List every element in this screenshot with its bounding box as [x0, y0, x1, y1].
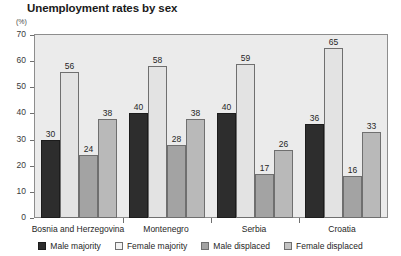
y-axis-tick-label: 40 [17, 107, 26, 117]
legend-item: Male displaced [201, 241, 270, 251]
y-axis-tick-label: 0 [21, 212, 26, 222]
x-axis-category-label: Serbia [242, 224, 267, 234]
bar [255, 174, 274, 218]
legend-swatch [284, 242, 292, 250]
y-axis-tick-label: 20 [17, 160, 26, 170]
bar [79, 155, 98, 218]
bar [274, 150, 293, 218]
y-axis-tick-mark [30, 192, 34, 193]
legend-label: Male displaced [213, 241, 270, 251]
x-axis-category-label: Montenegro [143, 224, 188, 234]
bar [217, 113, 236, 218]
chart-title: Unemployment rates by sex [27, 2, 177, 14]
bar-value-label: 33 [358, 121, 385, 131]
legend-label: Female displaced [296, 241, 363, 251]
y-axis-tick-mark [30, 35, 34, 36]
y-axis-tick-mark [30, 113, 34, 114]
y-axis: 010203040506070 [0, 0, 34, 219]
bar-value-label: 26 [270, 139, 297, 149]
bar [324, 48, 343, 218]
y-axis-tick-mark [30, 140, 34, 141]
x-axis-group-tick [299, 218, 300, 223]
legend-label: Female majority [127, 241, 187, 251]
bar [305, 124, 324, 218]
bar-value-label: 65 [320, 37, 347, 47]
y-axis-tick-label: 60 [17, 55, 26, 65]
y-axis-tick-label: 10 [17, 186, 26, 196]
legend-swatch [115, 242, 123, 250]
chart-figure: Unemployment rates by sex (%) 0102030405… [0, 0, 401, 256]
x-axis-category-label: Bosnia and Herzegovina [32, 224, 125, 234]
y-axis-tick-label: 70 [17, 29, 26, 39]
chart-legend: Male majorityFemale majorityMale displac… [0, 239, 401, 253]
bar [41, 140, 60, 218]
y-axis-tick-mark [30, 166, 34, 167]
bar [236, 64, 255, 218]
bar-value-label: 59 [232, 53, 259, 63]
bar-value-label: 58 [144, 55, 171, 65]
legend-item: Male majority [38, 241, 101, 251]
x-axis-group-tick [123, 218, 124, 223]
y-axis-tick-mark [30, 61, 34, 62]
bar [129, 113, 148, 218]
legend-swatch [201, 242, 209, 250]
y-axis-tick-mark [30, 87, 34, 88]
legend-swatch [38, 242, 46, 250]
y-axis-tick-label: 50 [17, 81, 26, 91]
x-axis-category-label: Croatia [328, 224, 355, 234]
legend-label: Male majority [50, 241, 101, 251]
bar-value-label: 38 [182, 108, 209, 118]
x-axis-group-tick [211, 218, 212, 223]
bars-layer: 30562438405828384059172636651633 [35, 35, 387, 218]
bar [343, 176, 362, 218]
bar [362, 132, 381, 218]
bar [98, 119, 117, 218]
bar-value-label: 56 [56, 61, 83, 71]
y-axis-tick-label: 30 [17, 134, 26, 144]
bar-value-label: 38 [94, 108, 121, 118]
legend-item: Female majority [115, 241, 187, 251]
bar [167, 145, 186, 218]
bar [186, 119, 205, 218]
x-axis-category-labels: Bosnia and HerzegovinaMontenegroSerbiaCr… [34, 224, 388, 238]
y-axis-tick-mark [30, 218, 34, 219]
legend-item: Female displaced [284, 241, 363, 251]
